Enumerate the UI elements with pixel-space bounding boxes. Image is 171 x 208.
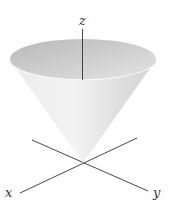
z-axis-label: z — [78, 13, 86, 28]
y-axis-label: y — [152, 185, 161, 200]
cone-surface — [10, 39, 156, 163]
cone-diagram: z x y — [0, 0, 171, 208]
x-axis-label: x — [5, 185, 13, 200]
